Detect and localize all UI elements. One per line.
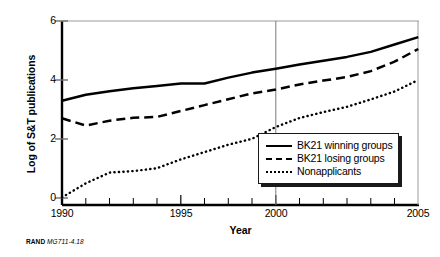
y-tick-label-6: 6 [38, 14, 56, 26]
y-axis-label: Log of S&T publications [25, 34, 37, 194]
y-tick-label-4: 4 [38, 73, 56, 85]
legend-item-nonapplicants: Nonapplicants [266, 165, 392, 178]
figure-container: Log of S&T publications Year 6 4 2 0 199… [0, 0, 440, 257]
y-tick-label-0: 0 [38, 191, 56, 203]
source-note: RAND MG711-4.18 [26, 238, 84, 245]
x-tick-label-2005: 2005 [396, 207, 440, 219]
x-tick-label-2000: 2000 [254, 207, 298, 219]
legend-label-bk21-winning: BK21 winning groups [297, 139, 392, 152]
source-note-org: RAND [26, 238, 45, 245]
legend-swatch-dashed-line-icon [266, 153, 292, 164]
legend-label-nonapplicants: Nonapplicants [297, 165, 361, 178]
chart-legend: BK21 winning groups BK21 losing groups N… [258, 133, 399, 184]
x-axis-label: Year [62, 224, 419, 236]
x-ticks [86, 195, 395, 205]
x-tick-label-1995: 1995 [159, 207, 203, 219]
series-line-bk21-losing [62, 49, 418, 126]
series-line-bk21-winning [62, 37, 418, 101]
legend-swatch-dotted-line-icon [266, 166, 292, 177]
y-tick-label-2: 2 [38, 132, 56, 144]
legend-label-bk21-losing: BK21 losing groups [297, 152, 384, 165]
source-note-id: MG711-4.18 [45, 238, 84, 245]
legend-item-bk21-losing: BK21 losing groups [266, 152, 392, 165]
legend-swatch-solid-line-icon [266, 140, 292, 151]
x-tick-label-1990: 1990 [40, 207, 84, 219]
legend-item-bk21-winning: BK21 winning groups [266, 139, 392, 152]
